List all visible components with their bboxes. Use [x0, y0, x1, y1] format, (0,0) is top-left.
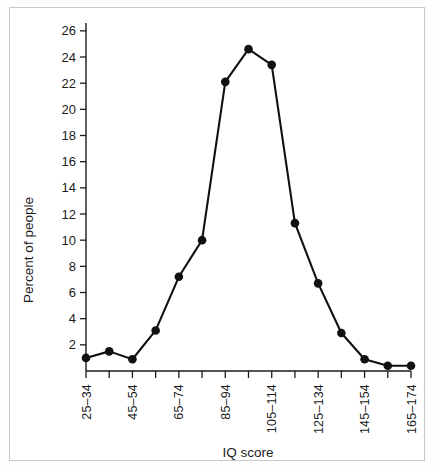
data-point-marker [291, 219, 300, 228]
y-axis-ticks [80, 31, 86, 345]
y-tick-label: 16 [62, 154, 76, 169]
data-point-marker [151, 326, 160, 335]
x-tick-label: 145–154 [358, 384, 372, 434]
data-point-marker [407, 361, 416, 370]
y-tick-label: 2 [69, 337, 76, 352]
data-point-marker [314, 279, 323, 288]
data-series-markers [82, 45, 416, 370]
data-point-marker [128, 355, 137, 364]
figure-container: 2468101214161820222426 25–3445–5465–7485… [0, 0, 435, 473]
data-series-line [86, 49, 411, 366]
data-point-marker [82, 354, 91, 363]
y-tick-label: 20 [62, 102, 76, 117]
x-axis-title: IQ score [222, 445, 273, 460]
data-point-marker [337, 329, 346, 338]
data-point-marker [360, 355, 369, 364]
y-tick-label: 10 [62, 233, 76, 248]
x-tick-label: 85–94 [219, 384, 233, 420]
x-axis-ticks [86, 371, 411, 378]
y-tick-label: 8 [69, 259, 76, 274]
y-tick-label: 24 [62, 50, 76, 65]
x-axis-tick-labels: 25–3445–5465–7485–94105–114125–134145–15… [80, 384, 419, 434]
x-tick-label: 165–174 [405, 384, 419, 434]
data-point-marker [383, 361, 392, 370]
x-tick-label: 45–54 [126, 384, 140, 420]
y-tick-label: 26 [62, 23, 76, 38]
data-point-marker [175, 273, 184, 282]
x-tick-label: 65–74 [172, 384, 186, 420]
x-tick-label: 105–114 [265, 384, 279, 433]
chart-plot: 2468101214161820222426 25–3445–5465–7485… [0, 0, 435, 473]
y-tick-label: 6 [69, 285, 76, 300]
data-point-marker [267, 61, 276, 70]
y-tick-label: 4 [69, 311, 76, 326]
y-tick-label: 18 [62, 128, 76, 143]
y-axis-title: Percent of people [21, 197, 36, 303]
data-point-marker [221, 78, 230, 87]
data-point-marker [198, 236, 207, 245]
x-tick-label: 25–34 [80, 384, 94, 420]
y-tick-label: 22 [62, 76, 76, 91]
y-tick-label: 14 [62, 180, 76, 195]
data-point-marker [105, 347, 114, 356]
data-point-marker [244, 45, 253, 54]
x-tick-label: 125–134 [312, 384, 326, 434]
y-tick-label: 12 [62, 207, 76, 222]
y-axis-tick-labels: 2468101214161820222426 [62, 23, 76, 352]
